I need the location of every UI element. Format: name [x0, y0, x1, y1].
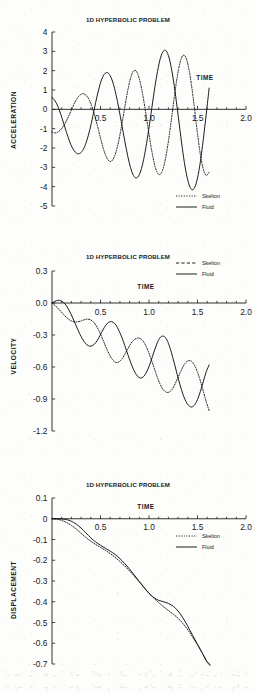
legend-label-fluid: Fluid: [202, 544, 214, 550]
y-tick-label: -0.6: [33, 638, 48, 648]
y-tick-label: -0.1: [33, 535, 48, 545]
y-tick-label: -3: [40, 162, 48, 172]
chart-panel-acceleration: 1D HYPERBOLIC PROBLEM43210-1-2-3-4-50.51…: [0, 0, 255, 231]
y-tick-label: -0.7: [33, 659, 48, 669]
acceleration-chart: 1D HYPERBOLIC PROBLEM43210-1-2-3-4-50.51…: [0, 0, 255, 231]
y-tick-label: 0.3: [36, 266, 48, 276]
x-tick-label: 1.5: [192, 113, 204, 123]
y-tick-label: -5: [40, 201, 48, 211]
y-tick-label: 3: [43, 46, 48, 56]
chart-title: 1D HYPERBOLIC PROBLEM: [86, 481, 170, 488]
y-tick-label: -0.6: [33, 362, 48, 372]
y-tick-label: -0.4: [33, 597, 48, 607]
y-tick-label: -1.2: [33, 426, 48, 436]
y-tick-label: -4: [40, 182, 48, 192]
x-tick-label: 0.5: [95, 522, 107, 532]
figure-page: 1D HYPERBOLIC PROBLEM43210-1-2-3-4-50.51…: [0, 0, 255, 693]
chart-panel-displacement: 1D HYPERBOLIC PROBLEM0.10-0.1-0.2-0.3-0.…: [0, 462, 255, 693]
series-curve-fluid: [52, 300, 209, 407]
legend-label-skeleton: Skelton: [202, 193, 220, 199]
series-curve-skelton: [52, 519, 210, 665]
y-axis-label: DISPLACEMENT: [10, 561, 17, 619]
y-tick-label: -0.3: [33, 330, 48, 340]
x-tick-label: 1.5: [192, 522, 204, 532]
y-axis-label: VELOCITY: [10, 337, 17, 374]
y-axis-label: ACCELERATION: [10, 91, 17, 149]
series-curve-skelton: [52, 303, 209, 411]
y-tick-label: -0.2: [33, 555, 48, 565]
x-tick-label: 2.0: [240, 522, 252, 532]
y-tick-label: -0.9: [33, 394, 48, 404]
x-tick-label: 1.0: [143, 113, 155, 123]
y-tick-label: -0.5: [33, 618, 48, 628]
y-tick-label: 2: [43, 66, 48, 76]
series-curve-skelton: [52, 55, 209, 175]
x-axis-label: TIME: [196, 74, 214, 81]
y-tick-label: 0.0: [36, 298, 48, 308]
x-tick-label: 1.5: [192, 307, 204, 317]
series-curve-fluid: [52, 50, 209, 190]
y-tick-label: 0: [43, 514, 48, 524]
y-tick-label: 0.1: [36, 493, 48, 503]
x-tick-label: 2.0: [240, 307, 252, 317]
legend-label-fluid: Fluid: [202, 204, 214, 210]
legend-label-skeleton: Skelton: [202, 533, 220, 539]
chart-title: 1D HYPERBOLIC PROBLEM: [86, 16, 170, 23]
x-axis-label: TIME: [137, 283, 155, 290]
y-tick-label: 0: [43, 104, 48, 114]
x-tick-label: 2.0: [240, 113, 252, 123]
chart-panel-velocity: 1D HYPERBOLIC PROBLEM0.30.0-0.3-0.6-0.9-…: [0, 231, 255, 462]
y-tick-label: 4: [43, 27, 48, 37]
x-tick-label: 0.5: [95, 307, 107, 317]
y-tick-label: 1: [43, 85, 48, 95]
x-axis-label: TIME: [137, 503, 155, 510]
displacement-chart: 1D HYPERBOLIC PROBLEM0.10-0.1-0.2-0.3-0.…: [0, 462, 255, 693]
y-tick-label: -2: [40, 143, 48, 153]
x-tick-label: 1.0: [143, 307, 155, 317]
legend-label-fluid: Fluid: [202, 271, 214, 277]
y-tick-label: -1: [40, 124, 48, 134]
velocity-chart: 1D HYPERBOLIC PROBLEM0.30.0-0.3-0.6-0.9-…: [0, 231, 255, 462]
chart-title: 1D HYPERBOLIC PROBLEM: [86, 253, 170, 260]
y-tick-label: -0.3: [33, 576, 48, 586]
series-curve-fluid: [52, 519, 210, 666]
x-tick-label: 1.0: [143, 522, 155, 532]
legend-label-skeleton: Skelton: [202, 260, 220, 266]
